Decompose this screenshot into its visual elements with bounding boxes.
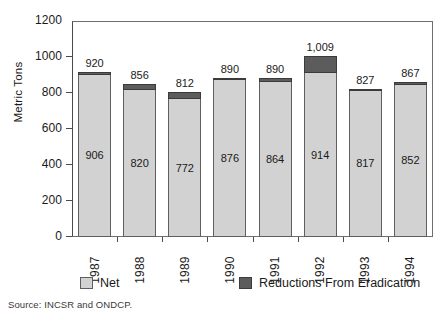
bar-group: 817827 bbox=[349, 21, 382, 237]
legend-item: Net bbox=[80, 276, 119, 290]
net-swatch bbox=[80, 277, 93, 289]
bar-total-label: 867 bbox=[375, 67, 445, 79]
x-axis-tick-mark bbox=[253, 237, 254, 242]
x-axis-tick-mark bbox=[343, 237, 344, 242]
bar-segment-net: 914 bbox=[304, 72, 337, 237]
bar-total-label: 1,009 bbox=[285, 41, 355, 53]
x-axis-tick-mark bbox=[207, 237, 208, 242]
bar-segment-eradication bbox=[168, 92, 201, 99]
bar-group: 864890 bbox=[259, 21, 292, 237]
y-axis-tick-label: 0 bbox=[0, 229, 62, 243]
bar-segment-net: 852 bbox=[394, 84, 427, 237]
y-axis-tick-label: 600 bbox=[0, 121, 62, 135]
bar-segment-eradication bbox=[304, 56, 337, 73]
y-axis-tick-label: 1000 bbox=[0, 49, 62, 63]
bar-total-label: 890 bbox=[240, 63, 310, 75]
bar-group: 9141,009 bbox=[304, 21, 337, 237]
bar-segment-eradication bbox=[259, 78, 292, 83]
bar-segment-net: 772 bbox=[168, 98, 201, 237]
bar-segment-net: 876 bbox=[213, 79, 246, 237]
legend-item: Reductions From Eradication bbox=[239, 276, 420, 290]
bar-total-label: 812 bbox=[150, 77, 220, 89]
bar-group: 876890 bbox=[213, 21, 246, 237]
bar-group: 820856 bbox=[123, 21, 156, 237]
bar-value-label-net: 914 bbox=[305, 149, 336, 161]
bar-segment-net: 906 bbox=[78, 74, 111, 237]
bar-value-label-net: 906 bbox=[79, 149, 110, 161]
x-axis-tick-mark bbox=[117, 237, 118, 242]
bar-value-label-net: 820 bbox=[124, 157, 155, 169]
bar-segment-eradication bbox=[394, 82, 427, 85]
bar-total-label: 920 bbox=[60, 57, 130, 69]
bar-group: 772812 bbox=[168, 21, 201, 237]
chart-figure: Metric Tons 020040060080010001200 906920… bbox=[0, 0, 445, 314]
legend-label: Net bbox=[100, 276, 119, 290]
y-axis-tick-label: 200 bbox=[0, 193, 62, 207]
bar-segment-eradication bbox=[213, 78, 246, 81]
y-axis-tick-label: 800 bbox=[0, 85, 62, 99]
bar-segment-net: 864 bbox=[259, 81, 292, 237]
bar-series-layer: 9069208208567728128768908648909141,00981… bbox=[72, 21, 433, 237]
bar-segment-eradication bbox=[349, 89, 382, 91]
bar-group: 852867 bbox=[394, 21, 427, 237]
bar-value-label-net: 772 bbox=[169, 162, 200, 174]
eradication-swatch bbox=[239, 277, 252, 289]
x-axis-tick-mark bbox=[388, 237, 389, 242]
source-note: Source: INCSR and ONDCP. bbox=[8, 299, 132, 310]
y-axis-tick-label: 1200 bbox=[0, 13, 62, 27]
x-axis-tick-mark bbox=[298, 237, 299, 242]
bar-value-label-net: 864 bbox=[260, 153, 291, 165]
bar-segment-net: 817 bbox=[349, 90, 382, 237]
legend-label: Reductions From Eradication bbox=[259, 276, 420, 290]
x-axis-tick-mark bbox=[162, 237, 163, 242]
bar-value-label-net: 817 bbox=[350, 157, 381, 169]
bar-value-label-net: 852 bbox=[395, 154, 426, 166]
bar-group: 906920 bbox=[78, 21, 111, 237]
bar-value-label-net: 876 bbox=[214, 152, 245, 164]
y-axis-tick-label: 400 bbox=[0, 157, 62, 171]
bar-segment-net: 820 bbox=[123, 89, 156, 237]
